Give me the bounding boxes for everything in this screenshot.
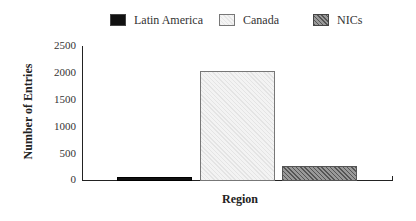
legend-label: NICs — [337, 13, 362, 28]
bar-canada — [200, 71, 275, 181]
legend-swatch-latin-america — [110, 14, 126, 26]
chart-legend: Latin America Canada NICs — [0, 10, 416, 30]
y-axis — [82, 46, 83, 180]
y-tick-2000: 2000 — [36, 66, 76, 78]
legend-item-nics: NICs — [313, 10, 362, 30]
y-tick-2500: 2500 — [36, 39, 76, 51]
x-axis-end-tick — [392, 176, 393, 181]
legend-label: Latin America — [134, 13, 203, 28]
y-tick-1000: 1000 — [36, 120, 76, 132]
bar-latin-america — [117, 177, 192, 181]
legend-item-canada: Canada — [219, 10, 279, 30]
y-axis-label: Number of Entries — [21, 42, 36, 182]
legend-label: Canada — [243, 13, 279, 28]
x-axis-label: Region — [200, 192, 280, 207]
bar-nics — [282, 166, 357, 181]
legend-swatch-nics — [313, 14, 329, 26]
y-tick-1500: 1500 — [36, 93, 76, 105]
y-tick-0: 0 — [36, 173, 76, 185]
y-tick-500: 500 — [36, 147, 76, 159]
legend-item-latin-america: Latin America — [110, 10, 203, 30]
legend-swatch-canada — [219, 14, 235, 26]
